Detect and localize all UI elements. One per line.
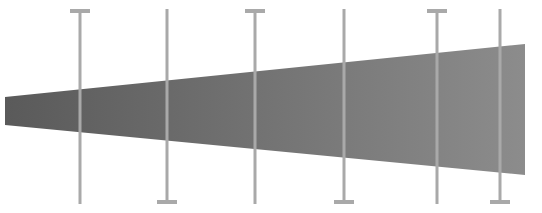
diagram-canvas (0, 0, 542, 213)
rod-cap-top-5 (427, 9, 447, 13)
rod-cap-bottom-4 (334, 200, 354, 204)
vertical-rod-1 (79, 9, 82, 204)
vertical-rod-2 (166, 9, 169, 204)
rod-cap-top-3 (245, 9, 265, 13)
vertical-rod-5 (436, 9, 439, 204)
vertical-rod-6 (499, 9, 502, 204)
rod-cap-bottom-6 (490, 200, 510, 204)
tapered-wedge (5, 44, 525, 175)
rod-cap-top-1 (70, 9, 90, 13)
wedge-rod-diagram (0, 0, 542, 213)
vertical-rod-4 (343, 9, 346, 204)
vertical-rod-3 (254, 9, 257, 204)
rod-cap-bottom-2 (157, 200, 177, 204)
